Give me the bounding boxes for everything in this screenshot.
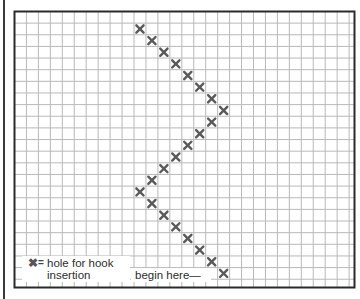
legend-equals: = xyxy=(38,257,44,269)
hook-hole-mark-icon xyxy=(172,60,179,67)
legend: ✖ = hole for hook insertion xyxy=(22,256,130,282)
hook-hole-mark-icon xyxy=(160,49,167,56)
hook-hole-mark-icon xyxy=(208,95,215,102)
hook-hole-mark-icon xyxy=(160,212,167,219)
hook-hole-mark-icon xyxy=(148,37,155,44)
hook-hole-mark-icon xyxy=(220,270,227,277)
legend-text-line1: hole for hook xyxy=(47,257,114,269)
hole-mark-icon: ✖ xyxy=(28,257,38,269)
begin-here-label: begin here— xyxy=(135,269,201,281)
hook-hole-mark-icon xyxy=(184,72,191,79)
hook-hole-mark-icon xyxy=(136,25,143,32)
hook-hole-mark-icon xyxy=(208,258,215,265)
grid-svg xyxy=(0,0,360,299)
hook-hole-mark-icon xyxy=(172,223,179,230)
hook-hole-mark-icon xyxy=(136,188,143,195)
legend-text-line2: insertion xyxy=(47,269,90,281)
hook-hole-mark-icon xyxy=(196,247,203,254)
hook-hole-mark-icon xyxy=(220,107,227,114)
hook-hole-mark-icon xyxy=(184,142,191,149)
hook-pattern-grid xyxy=(0,0,360,299)
hook-hole-mark-icon xyxy=(148,200,155,207)
hook-hole-mark-icon xyxy=(160,165,167,172)
hook-hole-mark-icon xyxy=(196,84,203,91)
hook-hole-mark-icon xyxy=(184,235,191,242)
hook-hole-mark-icon xyxy=(196,130,203,137)
hook-hole-mark-icon xyxy=(172,153,179,160)
start-label-box: begin here— xyxy=(131,268,211,282)
hook-hole-mark-icon xyxy=(208,118,215,125)
hook-hole-mark-icon xyxy=(148,177,155,184)
